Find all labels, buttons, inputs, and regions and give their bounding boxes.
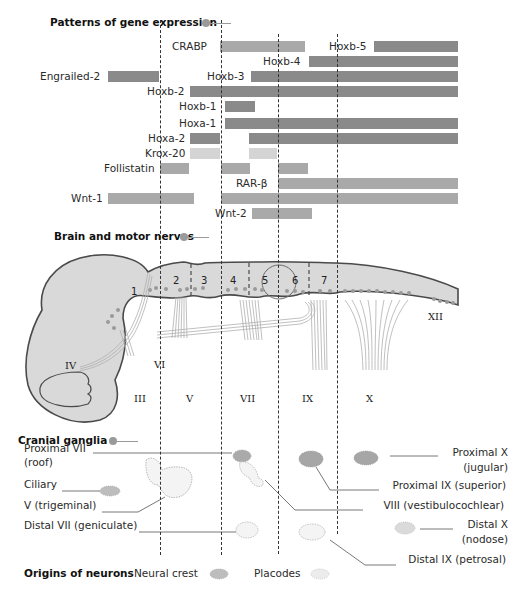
distal-vii-ganglion: [236, 522, 258, 538]
ganglion-label: Proximal X: [452, 446, 508, 459]
ganglion-label: Ciliary: [24, 478, 57, 491]
ganglion-label: (nodose): [462, 533, 508, 546]
svg-text:5: 5: [262, 275, 268, 286]
svg-text:3: 3: [201, 275, 207, 286]
svg-text:4: 4: [230, 275, 236, 286]
proximal-ix-ganglion: [299, 451, 323, 467]
svg-text:IV: IV: [65, 360, 77, 371]
distal-x-ganglion: [395, 522, 415, 534]
boundary-line-1: [160, 20, 161, 555]
ganglion-label: Distal X: [468, 518, 508, 531]
neural-crest-legend-label: Neural crest: [134, 567, 198, 580]
neural-crest-legend-icon: [210, 569, 228, 579]
svg-text:III: III: [134, 393, 146, 404]
svg-text:1: 1: [131, 286, 137, 297]
distal-ix-ganglion: [299, 524, 325, 540]
placodes-legend-label: Placodes: [254, 567, 300, 580]
boundary-line-4: [337, 34, 338, 534]
trigeminal-ganglion: [146, 458, 192, 498]
ganglion-label: Proximal VII: [24, 442, 86, 455]
boundary-line-2: [221, 20, 222, 555]
svg-text:7: 7: [321, 275, 327, 286]
ganglion-label: V (trigeminal): [24, 499, 96, 512]
ganglion-label: (roof): [24, 456, 53, 469]
svg-text:6: 6: [292, 275, 298, 286]
placodes-legend-icon: [311, 569, 329, 579]
ganglion-label: VIII (vestibulocochlear): [383, 499, 504, 512]
proximal-x-ganglion: [354, 451, 378, 465]
ciliary-ganglion: [100, 486, 120, 496]
boundary-line-3: [278, 34, 279, 554]
svg-text:X: X: [366, 393, 374, 404]
svg-text:IX: IX: [302, 393, 314, 404]
ganglion-label: (jugular): [463, 461, 508, 474]
svg-text:XII: XII: [428, 311, 443, 322]
ganglion-label: Distal IX (petrosal): [408, 553, 506, 566]
svg-text:V: V: [185, 393, 194, 404]
ganglia-blobs: [100, 450, 415, 579]
svg-text:2: 2: [173, 275, 179, 286]
ganglion-label: Proximal IX (superior): [393, 479, 506, 492]
viii-ganglion: [240, 462, 264, 487]
proximal-vii-ganglion: [233, 450, 251, 462]
ganglion-label: Distal VII (geniculate): [24, 519, 137, 532]
svg-text:VII: VII: [239, 393, 255, 404]
origins-title: Origins of neurons: [24, 567, 134, 579]
